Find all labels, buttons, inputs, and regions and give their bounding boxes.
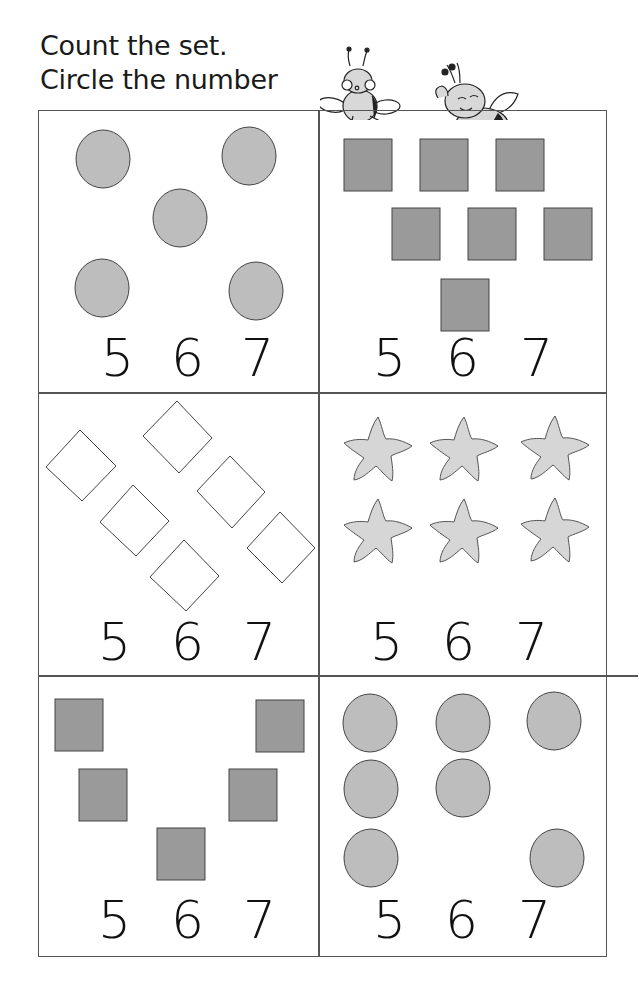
choice-7[interactable]: 7 [520, 328, 553, 388]
circle-shape [229, 262, 283, 320]
choice-6[interactable]: 6 [446, 328, 479, 388]
choice-6[interactable]: 6 [171, 612, 204, 672]
choice-7[interactable]: 7 [241, 328, 274, 388]
cell-circles-5: 5 6 7 [38, 110, 318, 392]
diamond-shape [100, 485, 169, 556]
choice-6[interactable]: 6 [442, 612, 475, 672]
square-shape [79, 769, 127, 821]
cell-diamonds-7: 5 6 7 [38, 392, 318, 675]
instruction-line-1: Count the set. [40, 30, 227, 62]
square-shape [441, 279, 489, 331]
choice-5[interactable]: 5 [98, 890, 131, 950]
instruction-line-2: Circle the number [40, 64, 278, 96]
square-shape [420, 139, 468, 191]
choice-7[interactable]: 7 [515, 612, 548, 672]
square-shape [157, 828, 205, 880]
choice-6[interactable]: 6 [171, 328, 204, 388]
choice-7[interactable]: 7 [243, 612, 276, 672]
diamond-shape [46, 430, 116, 501]
choice-7[interactable]: 7 [518, 890, 551, 950]
circle-shape [222, 127, 276, 185]
choice-5[interactable]: 5 [98, 612, 131, 672]
diamond-shape [247, 512, 315, 583]
cell-stars-6: 5 6 7 [318, 392, 607, 675]
choice-5[interactable]: 5 [370, 612, 403, 672]
choice-5[interactable]: 5 [373, 328, 406, 388]
choice-5[interactable]: 5 [101, 328, 134, 388]
square-shape [55, 699, 103, 751]
bees-illustration [320, 28, 520, 120]
square-shape [496, 139, 544, 191]
cell-squares-7: 5 6 7 [318, 110, 607, 392]
circle-shape [344, 760, 398, 818]
square-shape [256, 700, 304, 752]
square-shape [229, 769, 277, 821]
cell-squares-5: 5 6 7 [38, 675, 318, 957]
circle-shape [530, 829, 584, 887]
star-shape [430, 499, 498, 563]
square-shape [344, 139, 392, 191]
star-shape [430, 417, 498, 481]
choice-7[interactable]: 7 [243, 890, 276, 950]
circle-shape [344, 829, 398, 887]
diamond-shape [197, 456, 265, 528]
circle-shape [75, 259, 129, 317]
circle-shape [436, 759, 490, 817]
circle-shape [527, 692, 581, 750]
diamond-shape [143, 401, 212, 473]
square-shape [544, 208, 592, 260]
cell-circles-7: 5 6 7 [318, 675, 607, 957]
choice-6[interactable]: 6 [171, 890, 204, 950]
choice-6[interactable]: 6 [445, 890, 478, 950]
diamond-shape [150, 540, 219, 611]
choice-5[interactable]: 5 [373, 890, 406, 950]
star-shape [344, 499, 412, 563]
circle-shape [76, 130, 130, 188]
star-shape [521, 498, 589, 562]
circle-shape [153, 189, 207, 247]
square-shape [468, 208, 516, 260]
circle-shape [343, 694, 397, 752]
square-shape [392, 208, 440, 260]
star-shape [521, 416, 589, 480]
circle-shape [436, 694, 490, 752]
star-shape [344, 417, 412, 481]
